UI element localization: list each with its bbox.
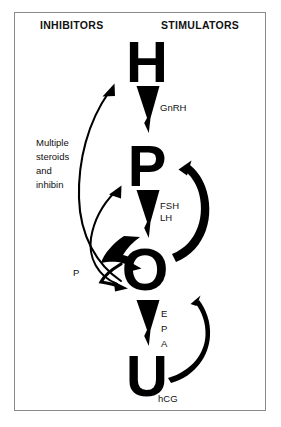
label-multiple-steroids-line-4: inhibin [36,178,69,192]
column-header-stimulators: STIMULATORS [161,19,239,31]
label-multiple-steroids-line-2: steroids [36,150,69,164]
label-multiple-steroids-and-inhibin: Multiple steroids and inhibin [36,136,69,192]
label-multiple-steroids-line-3: and [36,164,69,178]
label-hcg: hCG [158,393,178,406]
node-ovary: O [110,240,180,300]
label-gnrh: GnRH [160,102,186,115]
label-lh: LH [160,212,172,225]
label-progesterone-inhibitor: P [73,267,79,280]
node-pituitary: P [112,137,182,195]
label-androgen: A [161,338,167,351]
column-header-inhibitors: INHIBITORS [40,19,103,31]
label-fsh: FSH [160,200,179,213]
label-progesterone-stimulator: P [161,323,167,336]
label-estrogen: E [161,308,167,321]
node-hypothalamus: H [112,33,182,91]
diagram-canvas: INHIBITORS STIMULATORS [0,0,281,427]
label-multiple-steroids-line-1: Multiple [36,136,69,150]
